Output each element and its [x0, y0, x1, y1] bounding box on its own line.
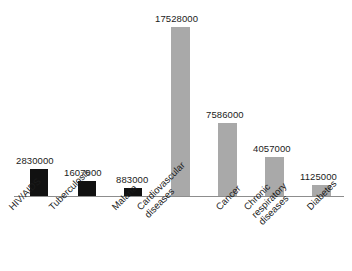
x-tick-label-chronic-respiratory-diseases: Chronic respiratory diseases — [242, 173, 296, 227]
bar-value-hiv-aids: 2830000 — [16, 155, 54, 166]
bar-value-cardiovascular-diseases: 17528000 — [155, 13, 198, 24]
plot-area: 2830000 1607000 883000 17528000 7586000 … — [0, 0, 352, 271]
bar-value-chronic-respiratory-diseases: 4057000 — [253, 143, 291, 154]
x-tick-label-malaria: Malaria — [110, 183, 139, 212]
bar-value-cancer: 7586000 — [206, 109, 244, 120]
bar-chart: 2830000 1607000 883000 17528000 7586000 … — [0, 0, 352, 271]
